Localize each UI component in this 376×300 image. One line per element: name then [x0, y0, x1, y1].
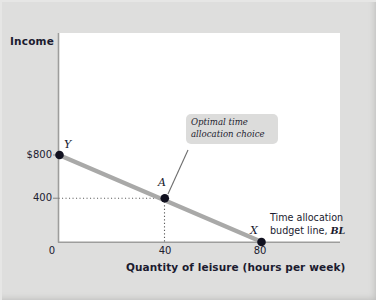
budget-line — [59, 155, 262, 242]
figure-container: Income Quantity of leisure (hours per we… — [0, 0, 376, 300]
y-tick-label-400: 400 — [16, 192, 52, 204]
x-tick-label-0: 0 — [46, 245, 58, 257]
budget-line-caption-line-1: Time allocation — [270, 212, 345, 225]
x-tick-label-80: 80 — [248, 245, 272, 257]
point-marker-A — [161, 194, 170, 203]
budget-line-caption-line-2: budget line, BL — [270, 225, 345, 238]
x-tick-label-40: 40 — [153, 245, 177, 257]
y-axis-title: Income — [10, 35, 54, 47]
callout-line-1: Optimal time — [191, 117, 273, 129]
optimal-choice-callout: Optimal time allocation choice — [186, 114, 278, 144]
point-label-a: A — [158, 177, 166, 190]
budget-line-caption: Time allocation budget line, BL — [270, 212, 345, 237]
point-label-y: Y — [64, 139, 71, 152]
callout-line-2: allocation choice — [191, 129, 273, 141]
budget-line-caption-text: budget line, — [270, 225, 327, 236]
x-axis-title: Quantity of leisure (hours per week) — [126, 261, 345, 273]
y-tick-label-800: $800 — [16, 149, 52, 161]
point-marker-Y — [55, 151, 64, 160]
point-label-x: X — [250, 225, 258, 238]
budget-line-symbol: BL — [331, 225, 346, 236]
callout-leader-line — [168, 150, 188, 194]
